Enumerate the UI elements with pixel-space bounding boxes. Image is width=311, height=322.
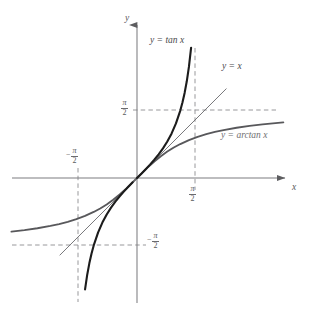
graph-figure: y x y = tan x y = x y = arctan x π 2 − π…: [0, 0, 311, 322]
curves-group: [11, 48, 283, 290]
tick-label-x-pos-pi-over-2: π 2: [189, 185, 196, 203]
curve-label-identity: y = x: [222, 62, 242, 72]
fraction-stack: π 2: [152, 232, 159, 250]
minus-sign: −: [66, 151, 71, 159]
curve-label-tan: y = tan x: [150, 36, 184, 46]
fraction-denominator: 2: [153, 241, 159, 250]
fraction-stack: π 2: [121, 99, 128, 117]
x-axis-label: x: [292, 183, 296, 193]
curve-tan-left: [85, 182, 133, 289]
fraction-numerator: π: [153, 232, 159, 241]
curve-label-arctan: y = arctan x: [221, 131, 267, 141]
curve-tan-right: [137, 48, 191, 178]
fraction-denominator: 2: [190, 194, 196, 203]
fraction-denominator: 2: [72, 156, 78, 165]
minus-sign: −: [147, 236, 152, 244]
fraction-stack: π 2: [189, 185, 196, 203]
tick-label-x-neg-pi-over-2: − π 2: [66, 147, 78, 165]
tick-label-y-neg-pi-over-2: − π 2: [147, 232, 159, 250]
fraction-numerator: π: [72, 147, 78, 156]
coordinate-axes: [12, 25, 285, 303]
tick-label-y-pos-pi-over-2: π 2: [121, 99, 128, 117]
y-axis-label: y: [125, 14, 129, 24]
fraction-stack: π 2: [71, 147, 78, 165]
fraction-denominator: 2: [122, 108, 128, 117]
dashed-reference-lines: [12, 48, 276, 302]
fraction-numerator: π: [189, 185, 195, 194]
plot-canvas: [0, 0, 311, 322]
fraction-numerator: π: [121, 99, 127, 108]
